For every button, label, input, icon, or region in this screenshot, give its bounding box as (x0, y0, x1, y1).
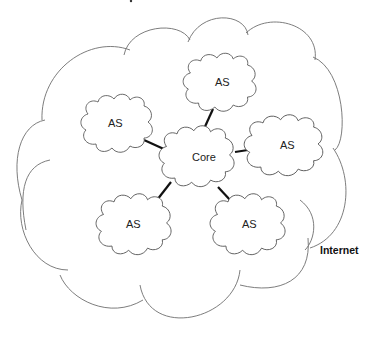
link-core-bottom-left (157, 182, 171, 200)
stray-mark (130, 0, 132, 2)
as-bottom-left-label: AS (126, 218, 141, 230)
core-label: Core (192, 151, 216, 163)
as-left-label: AS (108, 117, 123, 129)
as-top-label: AS (215, 76, 230, 88)
as-bottom-right-label: AS (242, 218, 257, 230)
internet-label: Internet (320, 244, 359, 256)
as-right-label: AS (280, 139, 295, 151)
internet-diagram: AS AS Core AS AS AS Internet (0, 0, 368, 343)
